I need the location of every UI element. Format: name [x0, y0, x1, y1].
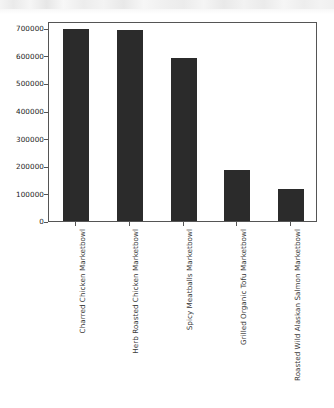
y-axis-tick-label: 600000 [0, 53, 44, 60]
y-axis-tick-mark [44, 29, 48, 30]
bar-chart: 0100000200000300000400000500000600000700… [0, 0, 334, 408]
x-axis-tick-mark [290, 222, 291, 226]
y-axis-tick-label: 300000 [0, 136, 44, 143]
x-axis-tick-mark [129, 222, 130, 226]
y-axis-tick-mark [44, 84, 48, 85]
x-axis-tick-label: Roasted Wild Alaskan Salmon Marketbowl [294, 229, 301, 381]
y-axis-tick-label: 400000 [0, 108, 44, 115]
y-axis-tick-mark [44, 194, 48, 195]
x-axis-tick-label: Spicy Meatballs Marketbowl [186, 229, 193, 330]
x-axis-tick-mark [75, 222, 76, 226]
y-axis-tick-label: 200000 [0, 163, 44, 170]
x-axis-tick-mark [236, 222, 237, 226]
bar [278, 189, 304, 221]
y-axis-tick-label: 700000 [0, 25, 44, 32]
bar [171, 58, 197, 221]
x-axis-tick-label: Herb Roasted Chicken Marketbowl [132, 229, 139, 354]
y-axis-tick-label: 0 [0, 218, 44, 225]
plot-area [48, 22, 317, 222]
y-axis-tick-mark [44, 112, 48, 113]
y-axis-tick-label: 500000 [0, 80, 44, 87]
y-axis-tick-mark [44, 56, 48, 57]
bar [117, 30, 143, 221]
x-axis-tick-label: Grilled Organic Tofu Marketbowl [240, 229, 247, 345]
y-axis-tick-mark [44, 222, 48, 223]
x-axis-tick-label: Charred Chicken Marketbowl [79, 229, 86, 333]
bar [63, 29, 89, 221]
bar [224, 170, 250, 221]
x-axis-tick-mark [183, 222, 184, 226]
y-axis-tick-label: 100000 [0, 191, 44, 198]
y-axis-tick-mark [44, 139, 48, 140]
y-axis-tick-mark [44, 167, 48, 168]
